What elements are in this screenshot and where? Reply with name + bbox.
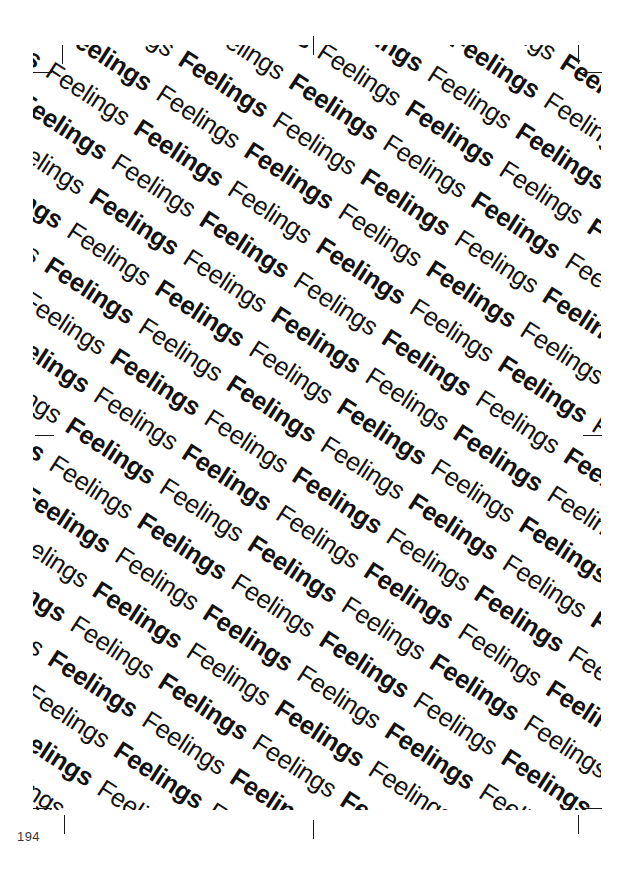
crop-mark-bottom-center: [313, 820, 314, 839]
crop-mark-bottom-right-vertical: [578, 815, 579, 834]
feelings-pattern-plate: FeelingsFeelingsFeelingsFeelingsFeelings…: [33, 45, 601, 810]
crop-mark-right-middle: [583, 435, 602, 436]
crop-mark-top-left-vertical: [62, 45, 63, 64]
crop-mark-top-right-horizontal: [583, 72, 602, 73]
pattern-rotation-wrapper: FeelingsFeelingsFeelingsFeelingsFeelings…: [33, 45, 601, 810]
crop-mark-bottom-left-vertical: [64, 815, 65, 834]
crop-mark-top-center: [313, 36, 314, 55]
crop-mark-bottom-right-horizontal: [583, 808, 602, 809]
crop-mark-top-left-horizontal: [33, 72, 52, 73]
book-page: FeelingsFeelingsFeelingsFeelingsFeelings…: [0, 0, 635, 882]
page-number: 194: [17, 829, 40, 844]
crop-mark-bottom-left-horizontal: [33, 808, 52, 809]
crop-mark-top-right-vertical: [578, 45, 579, 64]
crop-mark-left-middle: [35, 435, 54, 436]
